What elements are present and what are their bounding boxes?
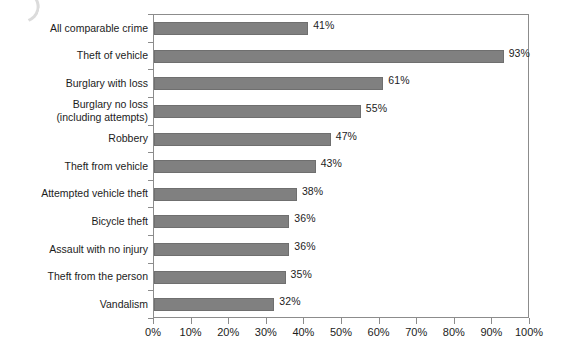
- bar-row: 32%: [154, 291, 528, 319]
- bar-value-label: 43%: [321, 157, 342, 169]
- bar: [154, 22, 308, 35]
- x-axis-tick: [416, 318, 417, 324]
- y-axis-tick: [148, 318, 153, 319]
- bar-value-label: 93%: [509, 47, 530, 59]
- bar-row: 35%: [154, 264, 528, 292]
- x-axis-tick: [191, 318, 192, 324]
- bar-value-label: 55%: [366, 102, 387, 114]
- bar-value-label: 47%: [336, 130, 357, 142]
- x-axis-tick-label: 90%: [480, 326, 502, 338]
- bar: [154, 243, 289, 256]
- x-axis-tick-label: 30%: [255, 326, 277, 338]
- bar: [154, 105, 361, 118]
- y-axis-category-label: Vandalism: [0, 298, 148, 311]
- bar-value-label: 35%: [291, 268, 312, 280]
- y-axis-category-label: Theft from vehicle: [0, 160, 148, 173]
- y-axis-tick: [148, 69, 153, 70]
- bar-row: 61%: [154, 70, 528, 98]
- x-axis-tick: [379, 318, 380, 324]
- x-axis-tick-label: 10%: [180, 326, 202, 338]
- y-axis-tick: [148, 97, 153, 98]
- x-axis-tick: [153, 318, 154, 324]
- bar: [154, 271, 286, 284]
- y-axis-tick: [148, 207, 153, 208]
- y-axis-category-label: Attempted vehicle theft: [0, 187, 148, 200]
- x-axis-tick: [341, 318, 342, 324]
- bar: [154, 298, 274, 311]
- bar-value-label: 61%: [388, 74, 409, 86]
- x-axis-tick-label: 70%: [405, 326, 427, 338]
- horizontal-bar-chart: All comparable crimeTheft of vehicleBurg…: [0, 0, 572, 359]
- y-axis-category-labels: All comparable crimeTheft of vehicleBurg…: [0, 14, 148, 318]
- y-axis-category-label: Theft from the person: [0, 270, 148, 283]
- x-axis-tick: [491, 318, 492, 324]
- bar-value-label: 38%: [302, 185, 323, 197]
- bar: [154, 215, 289, 228]
- bar-row: 38%: [154, 181, 528, 209]
- y-axis-category-label: Burglary with loss: [0, 77, 148, 90]
- bar-row: 47%: [154, 126, 528, 154]
- y-axis-category-label: Burglary no loss (including attempts): [0, 98, 148, 123]
- bar-row: 93%: [154, 43, 528, 71]
- x-axis-tick-label: 60%: [368, 326, 390, 338]
- bar-row: 43%: [154, 153, 528, 181]
- x-axis-tick: [303, 318, 304, 324]
- y-axis-tick: [148, 14, 153, 15]
- y-axis-category-label: All comparable crime: [0, 22, 148, 35]
- bar-row: 41%: [154, 15, 528, 43]
- bar: [154, 133, 331, 146]
- bar: [154, 188, 297, 201]
- x-axis-tick-label: 40%: [292, 326, 314, 338]
- y-axis-category-label: Bicycle theft: [0, 215, 148, 228]
- bar: [154, 160, 316, 173]
- x-axis-tick-label: 0%: [145, 326, 161, 338]
- x-axis-tick-label: 20%: [217, 326, 239, 338]
- x-axis-tick: [454, 318, 455, 324]
- y-axis-category-label: Theft of vehicle: [0, 49, 148, 62]
- x-axis: 0%10%20%30%40%50%60%70%80%90%100%: [0, 318, 572, 359]
- x-axis-tick-label: 50%: [330, 326, 352, 338]
- y-axis-category-label: Assault with no injury: [0, 243, 148, 256]
- bar-row: 36%: [154, 236, 528, 264]
- y-axis-category-label: Robbery: [0, 132, 148, 145]
- bar-value-label: 32%: [279, 295, 300, 307]
- bar-row: 36%: [154, 208, 528, 236]
- chart-screenshot: All comparable crimeTheft of vehicleBurg…: [0, 0, 572, 359]
- y-axis-tick: [148, 180, 153, 181]
- bar-value-label: 36%: [294, 240, 315, 252]
- plot-area: 41%93%61%55%47%43%38%36%36%35%32%: [153, 14, 529, 318]
- y-axis-tick: [148, 263, 153, 264]
- x-axis-tick: [266, 318, 267, 324]
- y-axis-tick: [148, 290, 153, 291]
- y-axis-tick: [148, 125, 153, 126]
- bar: [154, 77, 383, 90]
- bar-value-label: 41%: [313, 19, 334, 31]
- bar-row: 55%: [154, 98, 528, 126]
- y-axis-tick: [148, 42, 153, 43]
- x-axis-tick-label: 100%: [515, 326, 543, 338]
- x-axis-tick-label: 80%: [443, 326, 465, 338]
- bar: [154, 50, 504, 63]
- x-axis-tick: [228, 318, 229, 324]
- y-axis-tick: [148, 152, 153, 153]
- bar-value-label: 36%: [294, 212, 315, 224]
- y-axis-tick: [148, 235, 153, 236]
- x-axis-tick: [529, 318, 530, 324]
